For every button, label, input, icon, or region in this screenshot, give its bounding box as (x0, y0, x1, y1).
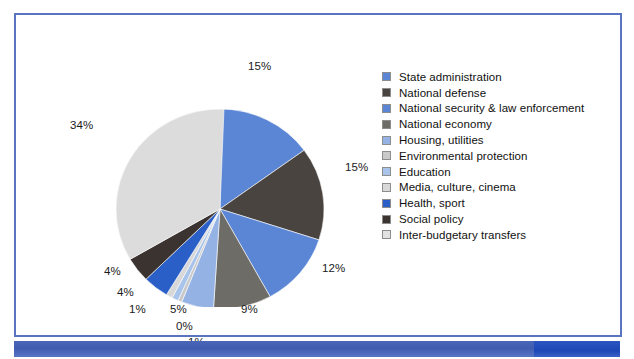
pie-slices (116, 109, 324, 307)
legend-item: State administration (382, 69, 612, 85)
pie-slice-percent-label: 15% (248, 60, 271, 72)
bottom-bar-main (14, 341, 534, 357)
legend-swatch-icon (382, 230, 391, 239)
legend-item-label: Environmental protection (399, 150, 527, 162)
legend-item-label: Media, culture, cinema (399, 181, 516, 193)
pie-slice-percent-label: 0% (176, 320, 193, 332)
pie-slice-percent-label: 12% (322, 262, 345, 274)
chart-legend: State administrationNational defenseNati… (382, 69, 612, 243)
legend-item: Inter-budgetary transfers (382, 227, 612, 243)
legend-item: Education (382, 164, 612, 180)
legend-swatch-icon (382, 215, 391, 224)
legend-item-label: Social policy (399, 213, 464, 225)
pie-slice-percent-label: 9% (241, 303, 258, 315)
legend-item: National defense (382, 85, 612, 101)
bottom-decorative-bar (14, 341, 622, 357)
pie-slice-percent-label: 34% (70, 119, 93, 131)
legend-swatch-icon (382, 151, 391, 160)
pie-slice-percent-label: 1% (129, 303, 146, 315)
legend-swatch-icon (382, 167, 391, 176)
legend-item-label: National security & law enforcement (399, 102, 584, 114)
legend-item-label: Inter-budgetary transfers (399, 229, 526, 241)
pie-slice-percent-label: 5% (170, 303, 187, 315)
legend-item-label: Health, sport (399, 197, 465, 209)
legend-swatch-icon (382, 199, 391, 208)
legend-swatch-icon (382, 88, 391, 97)
slide-frame: 15%15%12%9%5%0%1%1%4%4%34% State adminis… (14, 13, 622, 337)
legend-swatch-icon (382, 120, 391, 129)
legend-swatch-icon (382, 136, 391, 145)
legend-item: Health, sport (382, 195, 612, 211)
legend-item-label: National economy (399, 118, 492, 130)
legend-swatch-icon (382, 183, 391, 192)
legend-item-label: National defense (399, 87, 486, 99)
legend-item: Housing, utilities (382, 132, 612, 148)
legend-swatch-icon (382, 72, 391, 81)
legend-item: Social policy (382, 211, 612, 227)
pie-slice-percent-label: 15% (345, 161, 368, 173)
legend-item: National security & law enforcement (382, 101, 612, 117)
screenshot-root: 15%15%12%9%5%0%1%1%4%4%34% State adminis… (0, 0, 634, 359)
legend-item: Environmental protection (382, 148, 612, 164)
legend-item: National economy (382, 116, 612, 132)
legend-item-label: Housing, utilities (399, 134, 484, 146)
legend-item: Media, culture, cinema (382, 180, 612, 196)
pie-slice-percent-label: 4% (104, 265, 121, 277)
bottom-bar-accent (534, 341, 620, 357)
pie-slice-percent-label: 4% (117, 286, 134, 298)
legend-swatch-icon (382, 104, 391, 113)
legend-item-label: Education (399, 166, 451, 178)
legend-item-label: State administration (399, 71, 502, 83)
